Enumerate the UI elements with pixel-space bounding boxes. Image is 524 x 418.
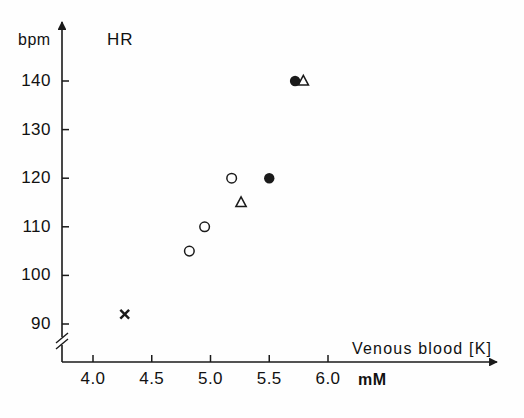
x-tick-label: 4.0 — [67, 370, 119, 387]
y-tick-label: 130 — [0, 121, 51, 138]
x-tick-label: 5.0 — [185, 370, 237, 387]
series-filled-circle — [264, 76, 300, 184]
y-tick-label: 100 — [0, 266, 51, 283]
marker-open-circle — [200, 222, 210, 232]
x-axis-title: Venous blood [K] — [352, 341, 492, 357]
marker-filled-circle — [264, 173, 274, 183]
y-tick-label: 90 — [0, 315, 51, 332]
y-tick-label: 140 — [0, 72, 51, 89]
series-cross — [120, 310, 129, 319]
data-marker-layer — [120, 75, 308, 318]
y-tick-label: 120 — [0, 169, 51, 186]
tick-layer — [62, 81, 328, 362]
marker-open-circle — [185, 246, 195, 256]
marker-open-triangle — [236, 197, 246, 207]
x-tick-label: 5.5 — [243, 370, 295, 387]
y-axis-unit-label: bpm — [18, 32, 51, 48]
marker-open-circle — [227, 173, 237, 183]
series-open-circle — [185, 173, 237, 256]
series-open-triangle — [236, 75, 309, 206]
figure-scatter-hr-vs-venous-potassium: bpm HR Venous blood [K] mM 9010011012013… — [0, 0, 524, 418]
x-tick-label: 6.0 — [302, 370, 354, 387]
x-tick-label: 4.5 — [126, 370, 178, 387]
x-axis-unit-label: mM — [358, 372, 387, 388]
y-axis-title: HR — [107, 31, 134, 48]
y-tick-label: 110 — [0, 218, 51, 235]
